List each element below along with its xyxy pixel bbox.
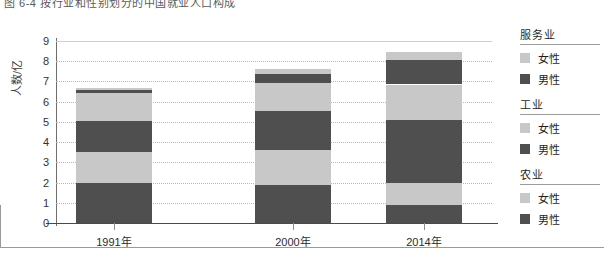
bar-segment — [386, 60, 462, 84]
x-tick — [293, 223, 294, 230]
legend-item[interactable]: 女性 — [520, 190, 600, 206]
y-tick-label: 1 — [43, 197, 49, 208]
legend-item-label: 女性 — [538, 120, 560, 136]
bar-segment — [386, 85, 462, 120]
legend-item[interactable]: 女性 — [520, 50, 600, 66]
bar-segment — [255, 111, 331, 150]
x-tick — [114, 223, 115, 230]
legend-item-label: 男性 — [538, 211, 560, 227]
legend-group: 工业女性男性 — [520, 96, 600, 157]
bar-segment — [76, 152, 152, 182]
legend-group-title: 农业 — [520, 166, 600, 185]
legend-group-title: 工业 — [520, 96, 600, 115]
legend-item-label: 女性 — [538, 190, 560, 206]
y-tick-label: 9 — [43, 36, 49, 47]
legend-swatch-icon — [520, 74, 530, 84]
y-tick-label: 0 — [43, 218, 49, 229]
bar-2014年 — [386, 41, 462, 223]
bar-segment — [386, 205, 462, 223]
y-tick-label: 4 — [43, 137, 49, 148]
bar-1991年 — [76, 41, 152, 223]
legend: 服务业女性男性工业女性男性农业女性男性 — [520, 26, 600, 236]
bar-segment — [255, 83, 331, 110]
y-tick-label: 6 — [43, 96, 49, 107]
bar-segment — [255, 74, 331, 83]
y-tick-label: 2 — [43, 177, 49, 188]
legend-item[interactable]: 男性 — [520, 141, 600, 157]
bar-segment — [76, 121, 152, 152]
legend-item[interactable]: 男性 — [520, 211, 600, 227]
y-tick-label: 8 — [43, 56, 49, 67]
y-tick-label: 3 — [43, 157, 49, 168]
bar-segment — [255, 150, 331, 184]
legend-swatch-icon — [520, 144, 530, 154]
legend-group-title: 服务业 — [520, 26, 600, 45]
stacked-bar-chart: 人数/亿 0123456789 1991年2000年2014年 — [0, 0, 604, 259]
bar-segment — [76, 88, 152, 90]
x-tick — [424, 223, 425, 230]
plot-area: 0123456789 — [56, 41, 492, 223]
figure-bottom-rule — [0, 247, 604, 248]
legend-swatch-icon — [520, 193, 530, 203]
y-tick-label: 5 — [43, 116, 49, 127]
legend-swatch-icon — [520, 214, 530, 224]
bar-segment — [76, 90, 152, 93]
legend-group: 服务业女性男性 — [520, 26, 600, 87]
y-tick-label: 7 — [43, 76, 49, 87]
y-axis-title: 人数/亿 — [8, 60, 24, 96]
legend-item-label: 男性 — [538, 71, 560, 87]
legend-item[interactable]: 男性 — [520, 71, 600, 87]
legend-item-label: 女性 — [538, 50, 560, 66]
bar-segment — [255, 69, 331, 74]
figure-left-rule — [0, 205, 1, 248]
legend-item-label: 男性 — [538, 141, 560, 157]
bar-segment — [76, 183, 152, 223]
bar-segment — [255, 185, 331, 223]
legend-item[interactable]: 女性 — [520, 120, 600, 136]
bar-segment — [386, 120, 462, 183]
legend-swatch-icon — [520, 123, 530, 133]
bar-segment — [386, 52, 462, 60]
legend-swatch-icon — [520, 53, 530, 63]
bar-2000年 — [255, 41, 331, 223]
legend-group: 农业女性男性 — [520, 166, 600, 227]
bar-segment — [386, 183, 462, 205]
bar-segment — [76, 93, 152, 121]
